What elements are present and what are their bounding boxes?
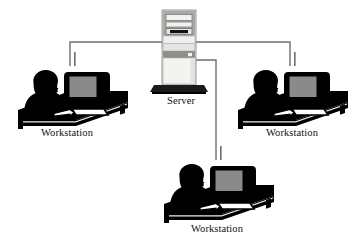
server-label: Server — [167, 95, 195, 106]
diagram-canvas: Server Workstation Workstation Workstati… — [0, 0, 362, 239]
server-tower-icon — [150, 10, 208, 94]
node-workstation-right[interactable]: Workstation — [238, 52, 348, 138]
workstation-bottom-label: Workstation — [191, 223, 244, 234]
workstation-left-label: Workstation — [41, 127, 94, 138]
workstation-icon — [164, 146, 274, 223]
workstation-icon — [238, 52, 348, 129]
cable-server-to-bottom — [196, 60, 216, 160]
cable-server-to-left — [70, 42, 162, 66]
workstation-right-label: Workstation — [266, 127, 319, 138]
node-workstation-left[interactable]: Workstation — [18, 52, 128, 138]
cable-server-to-right — [196, 42, 290, 66]
network-diagram: Server Workstation Workstation Workstati… — [0, 0, 362, 239]
workstation-icon — [18, 52, 128, 129]
node-workstation-bottom[interactable]: Workstation — [164, 146, 274, 234]
node-server[interactable]: Server — [150, 10, 208, 106]
